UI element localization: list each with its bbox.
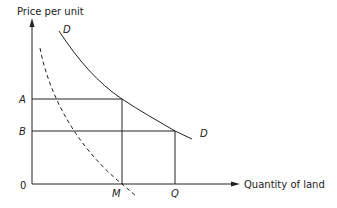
demand-label-top: D: [63, 24, 71, 35]
price-quantity-diagram: Price per unit Quantity of land 0 A B M …: [0, 0, 337, 208]
y-axis-label: Price per unit: [17, 6, 84, 17]
y-axis-arrow-icon: [30, 18, 35, 27]
x-axis-arrow-icon: [231, 182, 240, 187]
x-axis-label: Quantity of land: [244, 179, 325, 190]
demand-curve: [59, 31, 192, 139]
price-label-a: A: [18, 94, 26, 105]
quantity-label-m: M: [112, 188, 121, 199]
price-label-b: B: [19, 126, 26, 137]
demand-label-end: D: [200, 128, 208, 139]
origin-label: 0: [20, 180, 26, 191]
quantity-label-q: Q: [171, 188, 179, 199]
